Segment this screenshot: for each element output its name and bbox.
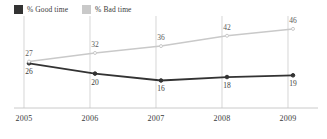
data-point-bad-2006 [94,51,97,54]
gridlines [24,16,288,108]
data-point-bad-2007 [160,45,163,48]
legend-swatch-bad-time [82,5,91,14]
legend-swatch-good-time [14,5,23,14]
line-chart: % Good time % Bad time 26201618192732364… [0,0,327,139]
value-label-good-2007: 16 [157,84,165,93]
value-label-bad-2006: 32 [91,40,99,49]
value-label-bad-2009: 46 [289,16,297,25]
value-label-good-2008: 18 [223,81,231,90]
plot-area [0,16,327,112]
data-point-good-2007 [159,79,163,83]
x-tick-2005: 2005 [16,114,33,124]
legend-item-bad-time: % Bad time [82,5,131,14]
plot-svg [0,16,327,112]
data-point-good-2008 [225,75,229,79]
data-point-good-2006 [93,72,97,76]
value-label-bad-2005: 27 [25,49,33,58]
x-tick-2008: 2008 [214,114,231,124]
legend-label-good-time: % Good time [27,5,68,14]
x-axis-ticks: 20052006200720082009 [0,114,327,128]
data-point-bad-2009 [292,27,295,30]
x-tick-2007: 2007 [148,114,165,124]
x-tick-2009: 2009 [280,114,297,124]
data-point-good-2009 [291,74,295,78]
chart-legend: % Good time % Bad time [14,2,132,16]
x-tick-2006: 2006 [82,114,99,124]
value-label-bad-2008: 42 [223,23,231,32]
data-point-bad-2008 [226,34,229,37]
value-label-good-2005: 26 [25,67,33,76]
value-label-good-2009: 19 [289,79,297,88]
value-label-good-2006: 20 [91,78,99,87]
series-line-good-time [29,63,293,80]
legend-label-bad-time: % Bad time [95,5,131,14]
value-label-bad-2007: 36 [157,33,165,42]
legend-item-good-time: % Good time [14,5,68,14]
data-point-bad-2005 [28,60,31,63]
